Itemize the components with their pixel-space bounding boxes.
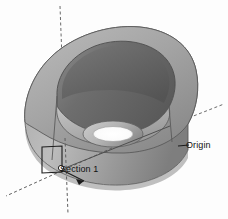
origin-label: Origin (186, 140, 211, 150)
bore-hole (93, 127, 133, 142)
section-label: Section 1 (60, 164, 98, 174)
cad-render-svg (0, 0, 228, 219)
cad-figure-canvas: Section 1 Origin (0, 0, 228, 219)
part-solid (25, 27, 198, 191)
